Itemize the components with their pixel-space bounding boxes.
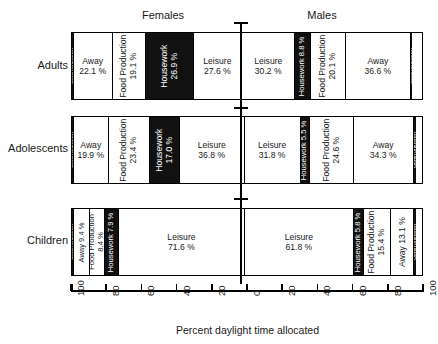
- bar-segment-label: Housework26.9 %: [159, 45, 179, 88]
- bar-segment-housework: Housework 5.8 %: [354, 209, 364, 275]
- bar-segment-label: Housework 8.8 %: [298, 36, 307, 96]
- x-axis-tick: [176, 284, 178, 291]
- x-axis-tick-label: 20: [216, 285, 227, 296]
- bar-segment-food-production: Food Production15.4 %: [364, 209, 391, 275]
- bar-segment-label: Other/Unknown: [414, 224, 416, 260]
- bar-segment-housework: Housework17.0 %: [150, 117, 180, 183]
- center-axis-cap-mid-1: [234, 107, 248, 109]
- x-axis-tick-label: 100: [427, 280, 438, 296]
- bar-segment-leisure: Leisure61.8 %: [245, 209, 354, 275]
- bar-segment-label: Away 9.4 %: [77, 222, 86, 262]
- x-axis-tick: [317, 284, 319, 291]
- x-axis-tick: [352, 284, 354, 291]
- x-axis-tick-label: 0: [251, 291, 262, 296]
- center-axis-cap-mid-2: [234, 198, 248, 200]
- bar-segment-label: Food Production24.6 %: [321, 118, 341, 181]
- center-zero-axis: [240, 22, 242, 284]
- bar-segment-label: Housework 7.9 %: [107, 212, 116, 272]
- bar-segment-away: Away36.6 %: [346, 33, 410, 99]
- bar-segment-label: Housework 5.5 %: [301, 120, 310, 180]
- x-axis-tick-label: 60: [145, 285, 156, 296]
- row-label-children: Children: [0, 234, 68, 246]
- x-axis-tick: [105, 284, 107, 291]
- bar-segment-label: Food Production15.4 %: [367, 210, 387, 273]
- bar-segment-label: Away 13.1 %: [397, 217, 407, 267]
- bar-segment-label: Other/Unknown: [414, 132, 416, 168]
- bar-segment-away: Away 9.4 %: [74, 209, 91, 275]
- x-axis-tick: [281, 284, 283, 291]
- x-axis-tick: [211, 284, 213, 291]
- bar-segment-leisure: Leisure31.8 %: [245, 117, 301, 183]
- x-axis-tick-label: 60: [357, 285, 368, 296]
- x-axis-tick: [246, 284, 248, 291]
- bar-segment-label: Housework17.0 %: [154, 129, 174, 172]
- bar-segment-food-production: Food Production20.1 %: [311, 33, 346, 99]
- bar-segment-away: Away19.9 %: [74, 117, 109, 183]
- row-label-adults: Adults: [0, 59, 68, 71]
- bar-segment-housework: Housework 7.9 %: [105, 209, 119, 275]
- bar-segment-leisure: Leisure30.2 %: [242, 33, 295, 99]
- bar-row-children: Other/UnknownAway 9.4 %Food Production8.…: [71, 208, 423, 276]
- bar-segment-leisure: Leisure36.8 %: [180, 117, 245, 183]
- bar-segment-other-unknown: Other/Unknown: [411, 33, 413, 99]
- x-axis-tick-label: 100: [75, 280, 86, 296]
- bar-segment-housework: Housework 8.8 %: [295, 33, 310, 99]
- bar-segment-housework: Housework 5.5 %: [301, 117, 311, 183]
- bar-segment-food-production: Food Production23.4 %: [109, 117, 150, 183]
- x-axis-tick-label: 80: [392, 285, 403, 296]
- bar-segment-label: Leisure27.6 %: [203, 56, 231, 76]
- x-axis-tick-label: 80: [110, 285, 121, 296]
- bar-segment-away: Away34.3 %: [354, 117, 414, 183]
- bar-segment-housework: Housework26.9 %: [146, 33, 193, 99]
- bar-segment-label: Other/Unknown: [411, 48, 413, 84]
- bar-row-adults: Other/UnknownAway22.1 %Food Production19…: [71, 32, 423, 100]
- bar-segment-label: Food Production23.4 %: [119, 118, 139, 181]
- bar-row-adolescents: Other/UnknownAway19.9 %Food Production23…: [71, 116, 423, 184]
- row-label-adolescents: Adolescents: [0, 142, 68, 154]
- bar-segment-food-production: Food Production24.6 %: [310, 117, 353, 183]
- bar-segment-leisure: Leisure27.6 %: [194, 33, 243, 99]
- bar-segment-food-production: Food Production8.4 %: [90, 209, 105, 275]
- x-axis-tick-label: 40: [321, 285, 332, 296]
- group-header-females: Females: [103, 9, 223, 21]
- bar-segment-label: Leisure71.6 %: [167, 232, 195, 252]
- bar-segment-away: Away22.1 %: [74, 33, 113, 99]
- center-axis-cap-top: [234, 22, 248, 24]
- x-axis-tick: [422, 284, 424, 291]
- bar-segment-label: Leisure36.8 %: [198, 140, 226, 160]
- bar-segment-other-unknown: Other/Unknown: [414, 209, 416, 275]
- bar-segment-leisure: Leisure71.6 %: [119, 209, 245, 275]
- bar-segment-label: Away19.9 %: [77, 140, 104, 160]
- bar-segment-label: Food Production19.1 %: [119, 34, 139, 97]
- bar-segment-label: Leisure61.8 %: [285, 232, 313, 252]
- bar-segment-label: Food Production8.4 %: [90, 214, 105, 270]
- bar-segment-label: Food Production20.1 %: [318, 34, 338, 97]
- bar-segment-away: Away 13.1 %: [391, 209, 414, 275]
- x-axis-tick-label: 40: [181, 285, 192, 296]
- bar-segment-label: Leisure31.8 %: [258, 140, 286, 160]
- bar-segment-label: Away34.3 %: [370, 140, 397, 160]
- bar-segment-other-unknown: Other/Unknown: [414, 117, 416, 183]
- group-header-males: Males: [262, 9, 382, 21]
- x-axis-tick-label: 20: [286, 285, 297, 296]
- bar-segment-label: Away22.1 %: [79, 56, 106, 76]
- bar-segment-label: Leisure30.2 %: [254, 56, 282, 76]
- x-axis-title: Percent daylight time allocated: [71, 324, 424, 336]
- plot-area: Other/UnknownAway22.1 %Food Production19…: [71, 28, 423, 280]
- bar-segment-label: Housework 5.8 %: [354, 212, 363, 272]
- x-axis-tick: [70, 284, 72, 291]
- x-axis-tick: [141, 284, 143, 291]
- bar-segment-label: Away36.6 %: [364, 56, 391, 76]
- x-axis-tick: [387, 284, 389, 291]
- bar-segment-food-production: Food Production19.1 %: [113, 33, 147, 99]
